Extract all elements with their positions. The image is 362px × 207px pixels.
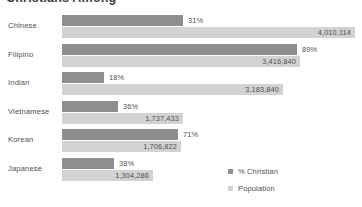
chart-row: Filipino89%3,416,840 [0, 43, 362, 72]
chart-plot-area: Chinese31%4,010,114Filipino89%3,416,840I… [0, 14, 362, 199]
bar-value-label: 1,304,286 [107, 171, 149, 180]
bar-value-label: 36% [123, 102, 138, 111]
bar-value-label: 38% [119, 159, 134, 168]
bar-pct-christian [62, 15, 183, 26]
bar-value-label: 71% [183, 130, 198, 139]
bar-pct-christian [62, 72, 104, 83]
category-label: Japanese [8, 164, 60, 173]
category-label: Chinese [8, 21, 60, 30]
chart-legend: % Christian Population [228, 167, 278, 201]
bar-pct-christian [62, 129, 178, 140]
bar-value-label: 1,737,433 [137, 114, 179, 123]
chart-row: Indian18%3,183,840 [0, 71, 362, 100]
chart-row: Japanese38%1,304,286 [0, 157, 362, 186]
bar-pct-christian [62, 44, 297, 55]
bar-value-label: 3,416,840 [254, 57, 296, 66]
bar-value-label: 89% [302, 45, 317, 54]
bar-value-label: 1,706,822 [135, 142, 177, 151]
bar-group: 31%4,010,114 [62, 15, 362, 41]
chart-row: Vietnamese36%1,737,433 [0, 100, 362, 129]
bar-group: 71%1,706,822 [62, 129, 362, 155]
category-label: Indian [8, 78, 60, 87]
category-label: Korean [8, 135, 60, 144]
legend-swatch-icon [228, 186, 233, 191]
chart-row: Chinese31%4,010,114 [0, 14, 362, 43]
bar-value-label: 31% [188, 16, 203, 25]
bar-group: 89%3,416,840 [62, 44, 362, 70]
legend-item-population: Population [228, 184, 278, 193]
bar-pct-christian [62, 158, 114, 169]
bar-value-label: 4,010,114 [309, 28, 351, 37]
bar-group: 18%3,183,840 [62, 72, 362, 98]
legend-swatch-icon [228, 169, 233, 174]
category-label: Filipino [8, 50, 60, 59]
bar-pct-christian [62, 101, 118, 112]
category-label: Vietnamese [8, 107, 60, 116]
chart-title: Christians Among [6, 0, 116, 5]
bar-group: 36%1,737,433 [62, 101, 362, 127]
legend-label: Population [238, 184, 275, 193]
bar-value-label: 3,183,840 [237, 85, 279, 94]
legend-label: % Christian [238, 167, 278, 176]
chart-row: Korean71%1,706,822 [0, 128, 362, 157]
bar-group: 38%1,304,286 [62, 158, 362, 184]
legend-item-pct-christian: % Christian [228, 167, 278, 176]
bar-value-label: 18% [109, 73, 124, 82]
